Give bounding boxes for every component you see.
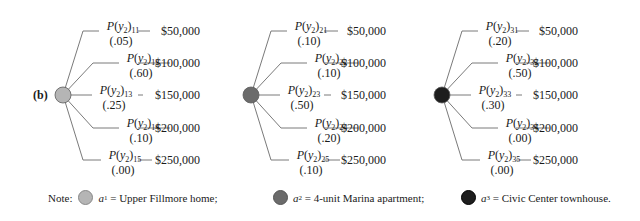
branch-probability-value: (.05) <box>110 34 133 48</box>
payoff-value: $100,000 <box>533 56 578 70</box>
branch: P(y2)34(.00)$200,000 <box>442 95 578 145</box>
payoff-value: $200,000 <box>155 121 200 135</box>
payoff-value: $250,000 <box>533 153 578 167</box>
legend-a2: a2 = 4-unit Marina apartment; <box>273 190 424 205</box>
legend-text: = 4-unit Marina apartment; <box>302 192 424 204</box>
payoff-value: $100,000 <box>155 56 200 70</box>
branch-probability-label: P(y2)23 <box>287 83 321 99</box>
branch-probability-label: P(y2)21 <box>294 19 328 35</box>
branch-probability-label: P(y2)25 <box>296 148 330 164</box>
branch-probability-value: (.10) <box>300 163 323 177</box>
payoff-value: $150,000 <box>533 88 578 102</box>
payoff-value: $200,000 <box>341 121 386 135</box>
node-a3-icon <box>461 190 476 205</box>
part-label: (b) <box>33 88 48 102</box>
legend-a3: a3 = Civic Center townhouse. <box>461 190 611 205</box>
tree-a1: P(y2)11(.05)$50,000P(y2)12(.60)$100,000P… <box>55 19 200 177</box>
branch-probability-value: (.00) <box>491 163 514 177</box>
payoff-value: $150,000 <box>341 88 386 102</box>
payoff-value: $250,000 <box>341 153 386 167</box>
chance-node-a3-icon <box>434 87 450 103</box>
branch-probability-value: (.60) <box>130 66 153 80</box>
branch: P(y2)33(.30)$150,000 <box>450 83 578 112</box>
legend-a1: Note: a1 = Upper Fillmore home; <box>48 190 218 205</box>
branch-probability-label: P(y2)33 <box>478 83 512 99</box>
chance-node-a1-icon <box>55 87 71 103</box>
node-a1-icon <box>78 190 93 205</box>
chance-node-a2-icon <box>243 87 259 103</box>
branch-probability-value: (.25) <box>103 98 126 112</box>
branch-probability-value: (.50) <box>291 98 314 112</box>
branch-probability-label: P(y2)31 <box>485 19 519 35</box>
branch: P(y2)14(.10)$200,000 <box>63 95 200 145</box>
branch-probability-value: (.50) <box>509 66 532 80</box>
branch-probability-label: P(y2)13 <box>99 83 133 99</box>
branch-probability-label: P(y2)11 <box>106 19 139 35</box>
branch-probability-value: (.00) <box>509 131 532 145</box>
payoff-value: $50,000 <box>539 24 578 38</box>
tree-a3: P(y2)31(.20)$50,000P(y2)32(.50)$100,000P… <box>434 19 578 177</box>
payoff-value: $50,000 <box>161 24 200 38</box>
branch-probability-value: (.30) <box>482 98 505 112</box>
tree-a2: P(y2)21(.10)$50,000P(y2)22(.10)$100,000P… <box>243 19 386 177</box>
branch-probability-value: (.00) <box>112 163 135 177</box>
payoff-value: $200,000 <box>533 121 578 135</box>
branch-probability-value: (.20) <box>318 131 341 145</box>
branch: P(y2)13(.25)$150,000 <box>71 83 200 112</box>
branch-probability-label: P(y2)35 <box>487 148 521 164</box>
decision-tree-diagram: (b) P(y2)11(.05)$50,000P(y2)12(.60)$100,… <box>0 0 640 221</box>
node-a2-icon <box>273 190 288 205</box>
branch-probability-value: (.10) <box>318 66 341 80</box>
payoff-value: $100,000 <box>341 56 386 70</box>
payoff-value: $50,000 <box>347 24 386 38</box>
legend-text: = Upper Fillmore home; <box>107 192 217 204</box>
branch: P(y2)24(.20)$200,000 <box>251 95 386 145</box>
legend-text: = Civic Center townhouse. <box>490 192 611 204</box>
branch-probability-label: P(y2)15 <box>108 148 142 164</box>
branch-probability-value: (.10) <box>130 131 153 145</box>
payoff-value: $250,000 <box>155 153 200 167</box>
payoff-value: $150,000 <box>155 88 200 102</box>
note-prefix: Note: <box>48 192 72 204</box>
branch-probability-value: (.20) <box>489 34 512 48</box>
branch: P(y2)23(.50)$150,000 <box>259 83 386 112</box>
branch-probability-value: (.10) <box>298 34 321 48</box>
